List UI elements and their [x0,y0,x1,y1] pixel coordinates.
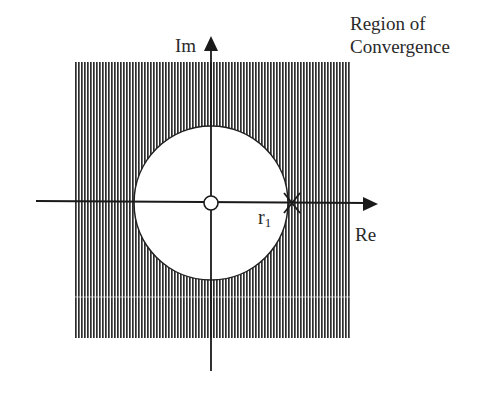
pole-label-subscript: 1 [265,215,272,230]
diagram-title: Region of Convergence [350,12,450,58]
title-line-1: Region of [350,12,450,35]
real-axis-arrow-icon [363,197,378,211]
imaginary-axis-arrow-icon [204,36,218,51]
pole-label: r1 [258,206,271,234]
imaginary-axis-label: Im [175,35,196,57]
roc-diagram [0,0,503,405]
title-line-2: Convergence [350,35,450,58]
real-axis-label: Re [355,224,376,246]
zero-marker-icon [204,196,218,210]
pole-label-base: r [258,206,265,228]
